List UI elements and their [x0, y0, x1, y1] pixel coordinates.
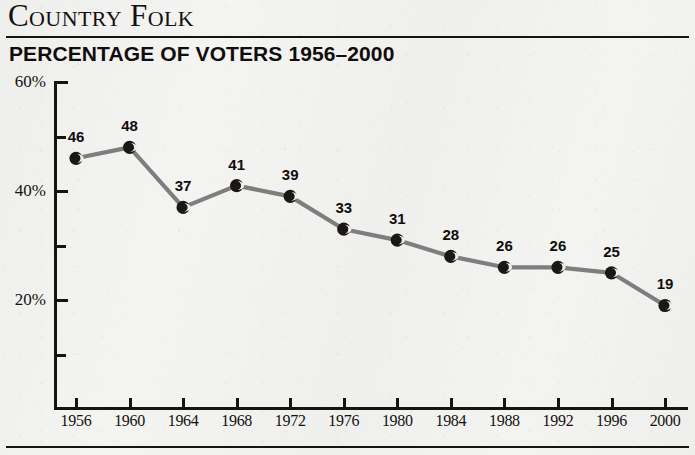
data-point-marker — [391, 234, 405, 247]
series-line — [76, 147, 665, 305]
bottom-divider — [6, 446, 689, 448]
series-graphic — [0, 0, 695, 455]
data-label-1996: 25 — [589, 244, 635, 259]
data-label-1992: 26 — [535, 238, 581, 253]
data-point-marker — [337, 223, 351, 236]
data-label-1972: 39 — [267, 167, 313, 182]
chart-plot-area: 60%40%20% 195619601964196819721976198019… — [0, 0, 695, 455]
data-point-marker — [69, 152, 83, 165]
data-label-1976: 33 — [321, 200, 367, 215]
data-label-1984: 28 — [428, 227, 474, 242]
data-point-marker — [177, 201, 191, 214]
data-point-marker — [498, 261, 512, 274]
data-point-marker — [444, 250, 458, 263]
data-point-marker — [230, 179, 244, 192]
data-point-marker — [658, 299, 672, 312]
chart-page: Country Folk PERCENTAGE OF VOTERS 1956–2… — [0, 0, 695, 455]
data-point-marker — [551, 261, 565, 274]
data-label-1968: 41 — [214, 157, 260, 172]
data-label-1964: 37 — [160, 178, 206, 193]
series-markers — [69, 141, 672, 312]
data-label-1956: 46 — [53, 129, 99, 144]
data-label-1980: 31 — [374, 211, 420, 226]
data-label-1960: 48 — [107, 118, 153, 133]
data-label-1988: 26 — [481, 238, 527, 253]
data-label-2000: 19 — [642, 276, 688, 291]
